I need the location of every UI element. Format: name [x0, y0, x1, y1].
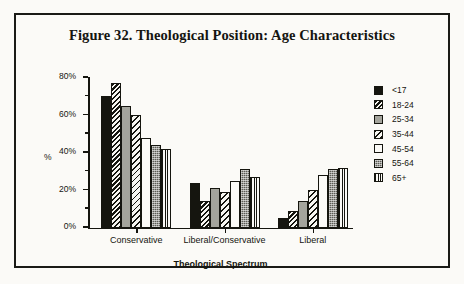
bar: [141, 138, 151, 228]
bar: [200, 201, 210, 227]
legend-item-label: 25-34: [392, 114, 414, 124]
y-tick-minor: [85, 207, 89, 209]
legend-swatch-35-44: [374, 130, 383, 139]
figure-page: Figure 32. Theological Position: Age Cha…: [0, 0, 464, 284]
y-tick-label: 80%: [59, 71, 76, 81]
y-tick-major: 60%: [83, 114, 88, 116]
legend: <1718-2425-3435-4445-5455-6465+: [374, 83, 414, 185]
bar-group: [278, 78, 348, 228]
bar: [161, 149, 171, 228]
bar: [298, 201, 308, 227]
legend-item: 18-24: [374, 98, 414, 113]
figure-frame: Figure 32. Theological Position: Age Cha…: [14, 13, 450, 268]
bar: [190, 183, 200, 228]
y-tick-label: 40%: [59, 146, 76, 156]
legend-item: 65+: [374, 171, 414, 186]
bar: [111, 83, 121, 227]
bar: [101, 96, 111, 227]
legend-swatch-45-54: [374, 144, 383, 153]
y-tick-major: 40%: [83, 151, 88, 153]
legend-swatch-25-34: [374, 115, 383, 124]
legend-item: <17: [374, 83, 414, 98]
bar: [210, 188, 220, 227]
bar: [240, 169, 250, 227]
x-axis-title: Theological Spectrum: [88, 259, 353, 269]
legend-swatch-under17: [374, 86, 383, 95]
y-tick-label: 20%: [59, 184, 76, 194]
legend-item: 45-54: [374, 141, 414, 156]
bar: [278, 218, 288, 227]
x-tick-label: Liberal/Conservative: [183, 235, 265, 245]
x-tick-label: Conservative: [110, 235, 163, 245]
bar: [131, 115, 141, 228]
legend-swatch-65plus: [374, 173, 383, 182]
y-tick-minor: [85, 95, 89, 97]
y-axis-title: %: [44, 152, 52, 162]
x-tick: [136, 229, 138, 234]
bar: [328, 169, 338, 227]
legend-item: 25-34: [374, 112, 414, 127]
legend-item-label: 55-64: [392, 158, 414, 168]
y-tick-major: 20%: [83, 189, 88, 191]
page-title: Figure 32. Theological Position: Age Cha…: [16, 27, 448, 44]
y-tick-major: 80%: [83, 76, 88, 78]
y-tick-minor: [85, 132, 89, 134]
bar: [308, 190, 318, 228]
y-tick-label: 60%: [59, 109, 76, 119]
bar: [121, 106, 131, 228]
legend-item: 35-44: [374, 127, 414, 142]
bar: [230, 181, 240, 228]
legend-item-label: <17: [392, 85, 406, 95]
legend-swatch-18-24: [374, 100, 383, 109]
plot-area: 0%20%40%60%80% ConservativeLiberal/Conse…: [88, 77, 353, 229]
legend-item-label: 45-54: [392, 144, 414, 154]
legend-item-label: 18-24: [392, 100, 414, 110]
y-tick-minor: [85, 170, 89, 172]
bar: [338, 168, 348, 228]
legend-swatch-55-64: [374, 159, 383, 168]
bar-group: [101, 78, 171, 228]
bar: [318, 175, 328, 228]
y-tick-major: 0%: [83, 226, 88, 228]
legend-item-label: 65+: [392, 173, 406, 183]
bar-group: [190, 78, 260, 228]
legend-item-label: 35-44: [392, 129, 414, 139]
y-tick-label: 0%: [64, 221, 76, 231]
x-tick: [313, 229, 315, 234]
y-axis-line: [88, 77, 90, 229]
bar: [288, 211, 298, 228]
legend-item: 55-64: [374, 156, 414, 171]
bar: [220, 192, 230, 228]
bar: [151, 145, 161, 228]
x-tick: [225, 229, 227, 234]
x-tick-label: Liberal: [299, 235, 326, 245]
bar: [250, 177, 260, 228]
